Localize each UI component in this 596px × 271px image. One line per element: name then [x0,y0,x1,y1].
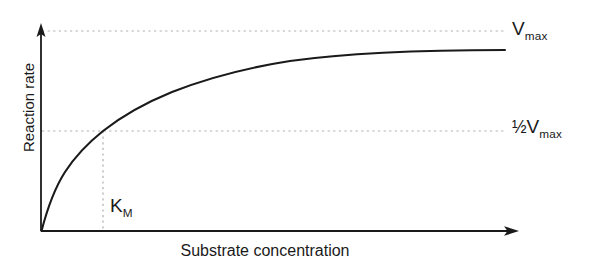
half-vmax-fraction: ½ [512,117,527,137]
vmax-label-base: V [512,18,525,39]
km-label-base: K [110,195,123,216]
km-label: KM [110,196,133,219]
vmax-label-subscript: max [525,29,548,42]
half-vmax-label: ½Vmax [512,117,562,140]
km-label-subscript: M [123,206,133,219]
y-axis-title: Reaction rate [21,38,36,178]
x-axis-title: Substrate concentration [140,243,390,259]
half-vmax-label-subscript: max [539,127,562,140]
half-vmax-label-base: V [527,116,540,137]
michaelis-menten-figure: Reaction rate Substrate concentration Vm… [0,0,596,271]
plot-canvas [0,0,596,271]
vmax-label: Vmax [512,19,548,42]
